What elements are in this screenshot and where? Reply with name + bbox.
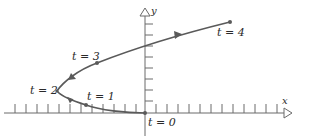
direction-arrows [65,31,182,104]
label-t4: t = 4 [217,27,245,38]
y-axis-label: y [151,6,157,16]
y-axis-ticks [145,24,153,101]
label-t0: t = 0 [148,117,176,128]
label-t1: t = 1 [87,91,115,102]
point-t0 [143,111,147,115]
x-axis-label: x [282,96,288,106]
y-axis-arrow-icon [140,8,150,16]
label-t3: t = 3 [72,51,100,62]
label-t2: t = 2 [30,85,58,96]
x-axis-arrow-icon [284,108,292,118]
parametric-curve [57,22,230,113]
curve-points [55,20,232,115]
point-t1 [84,103,88,107]
point-t4 [228,20,232,24]
